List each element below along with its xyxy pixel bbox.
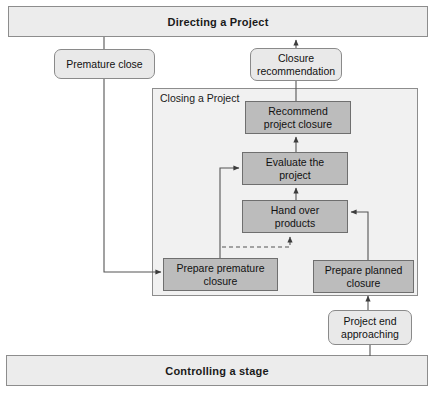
node-prepare-premature-closure[interactable]: Prepare premature closure: [163, 258, 278, 291]
node-evaluate-the-project-line1: Evaluate the: [266, 156, 324, 168]
node-evaluate-the-project-line2: project: [279, 169, 311, 181]
node-hand-over-products[interactable]: Hand over products: [242, 200, 348, 233]
container-closing-a-project-label: Closing a Project: [160, 92, 239, 104]
node-recommend-project-closure-line1: Recommend: [268, 105, 328, 117]
node-hand-over-products-line2: products: [275, 217, 315, 229]
node-closure-recommendation-line2: recommendation: [257, 65, 335, 77]
node-prepare-planned-closure[interactable]: Prepare planned closure: [313, 260, 414, 293]
node-hand-over-products-line1: Hand over: [271, 204, 319, 216]
node-project-end-approaching-line2: approaching: [341, 328, 399, 340]
banner-controlling-label: Controlling a stage: [165, 365, 268, 377]
process-diagram: Directing a Project Controlling a stage …: [0, 0, 435, 395]
node-project-end-approaching[interactable]: Project end approaching: [328, 310, 412, 345]
node-evaluate-the-project[interactable]: Evaluate the project: [242, 152, 348, 185]
node-premature-close[interactable]: Premature close: [54, 49, 155, 79]
node-closure-recommendation-line1: Closure: [278, 52, 314, 64]
banner-directing-label: Directing a Project: [168, 16, 269, 28]
node-closure-recommendation[interactable]: Closure recommendation: [250, 48, 342, 81]
node-prepare-premature-closure-line2: closure: [204, 275, 238, 287]
node-prepare-premature-closure-line1: Prepare premature: [176, 262, 264, 274]
node-recommend-project-closure-line2: project closure: [264, 118, 332, 130]
node-project-end-approaching-line1: Project end: [343, 315, 396, 327]
node-prepare-planned-closure-line2: closure: [347, 277, 381, 289]
node-prepare-planned-closure-line1: Prepare planned: [325, 264, 403, 276]
banner-directing-a-project[interactable]: Directing a Project: [8, 6, 428, 37]
banner-controlling-a-stage[interactable]: Controlling a stage: [6, 355, 428, 386]
node-premature-close-label: Premature close: [66, 58, 142, 70]
node-recommend-project-closure[interactable]: Recommend project closure: [245, 101, 351, 134]
